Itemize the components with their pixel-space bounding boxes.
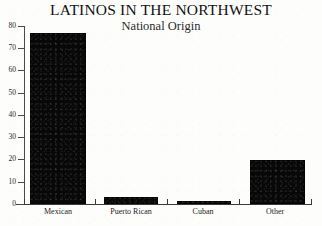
- bar-puerto-rican: [104, 197, 158, 204]
- chart-subtitle: National Origin: [0, 19, 322, 34]
- x-axis-label-puerto-rican: Puerto Rican: [96, 207, 166, 216]
- x-axis-line: [16, 204, 312, 205]
- y-axis-label: 10: [0, 178, 16, 186]
- y-axis-label: 70: [0, 44, 16, 52]
- y-axis-tick: [18, 26, 24, 27]
- bar-cuban: [177, 201, 231, 204]
- y-axis-label: 80: [0, 22, 16, 30]
- y-axis-tick: [18, 48, 24, 49]
- y-axis-label: 20: [0, 155, 16, 163]
- y-axis-label: 40: [0, 111, 16, 119]
- chart-title: LATINOS IN THE NORTHWEST: [0, 1, 322, 19]
- y-axis-tick: [18, 93, 24, 94]
- y-axis-label: 30: [0, 133, 16, 141]
- x-axis-tick: [95, 199, 96, 205]
- x-axis-tick: [24, 199, 25, 205]
- bar-mexican: [30, 33, 86, 204]
- x-axis-tick: [311, 199, 312, 205]
- x-axis-label-mexican: Mexican: [24, 207, 92, 216]
- y-axis-label: 0: [0, 200, 16, 208]
- x-axis-tick: [239, 199, 240, 205]
- y-axis-label: 60: [0, 66, 16, 74]
- y-axis-tick: [18, 182, 24, 183]
- x-axis-tick: [167, 199, 168, 205]
- y-axis-tick: [18, 115, 24, 116]
- x-axis-label-other: Other: [240, 207, 310, 216]
- y-axis-label: 50: [0, 89, 16, 97]
- y-axis-tick: [18, 70, 24, 71]
- y-axis-tick: [18, 159, 24, 160]
- bar-other: [250, 160, 305, 204]
- x-axis-label-cuban: Cuban: [168, 207, 238, 216]
- y-axis-tick: [18, 137, 24, 138]
- y-axis-line: [24, 26, 25, 205]
- chart-figure: LATINOS IN THE NORTHWEST National Origin…: [0, 0, 322, 226]
